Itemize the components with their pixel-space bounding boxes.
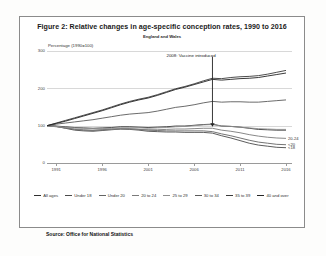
edge-label-20-24: 20-24 xyxy=(288,136,298,141)
legend-swatch-icon xyxy=(132,195,139,196)
legend-label: Under 18 xyxy=(74,193,91,198)
x-tick-label-2016: 2016 xyxy=(275,167,297,172)
legend-label: 30 to 34 xyxy=(204,193,219,198)
x-tick-label-2011: 2011 xyxy=(229,167,251,172)
edge-label-18: <18 xyxy=(288,145,295,150)
figure-border-box: Figure 2: Relative changes in age-specif… xyxy=(19,16,305,228)
x-tick-mark-2016 xyxy=(286,163,287,166)
series-lines xyxy=(47,45,298,185)
y-tick-label-300: 300 xyxy=(28,48,45,53)
legend-item-35-to-39[interactable]: 35 to 39 xyxy=(226,193,250,198)
x-tick-mark-2011 xyxy=(240,163,241,166)
x-tick-mark-1991 xyxy=(56,163,57,166)
legend-item-30-to-34[interactable]: 30 to 34 xyxy=(195,193,219,198)
legend-item-under-20[interactable]: Under 20 xyxy=(99,193,125,198)
figure-subtitle: England and Wales xyxy=(20,34,304,39)
x-tick-label-2001: 2001 xyxy=(137,167,159,172)
x-tick-mark-1996 xyxy=(102,163,103,166)
legend-label: All ages xyxy=(43,193,58,198)
legend-label: 40 and over xyxy=(266,193,288,198)
y-tick-label-200: 200 xyxy=(28,86,45,91)
line-40-and-over xyxy=(47,73,286,126)
legend-row: All agesUnder 18Under 2020 to 2425 to 29… xyxy=(34,193,306,200)
source-note: Source: Office for National Statistics xyxy=(46,231,133,237)
y-tick-label-100: 100 xyxy=(28,123,45,128)
legend-item-under-18[interactable]: Under 18 xyxy=(65,193,91,198)
legend-swatch-icon xyxy=(195,195,202,196)
legend-swatch-icon xyxy=(99,195,106,196)
line-30-to-34 xyxy=(47,100,286,126)
legend-swatch-icon xyxy=(163,195,170,196)
annotation-vaccine-label: 2008: Vaccine introduced xyxy=(166,53,215,58)
legend-label: 35 to 39 xyxy=(235,193,250,198)
line-35-to-39 xyxy=(47,70,286,125)
legend-item-20-to-24[interactable]: 20 to 24 xyxy=(132,193,156,198)
legend-swatch-icon xyxy=(257,195,264,196)
x-tick-label-1996: 1996 xyxy=(91,167,113,172)
legend-item-40-and-over[interactable]: 40 and over xyxy=(257,193,288,198)
x-tick-label-2006: 2006 xyxy=(183,167,205,172)
legend-label: 20 to 24 xyxy=(141,193,156,198)
x-tick-label-1991: 1991 xyxy=(45,167,67,172)
legend-swatch-icon xyxy=(65,195,72,196)
figure-title: Figure 2: Relative changes in age-specif… xyxy=(20,23,304,31)
plot-area: Percentage (1990=100) 0100200300 1991199… xyxy=(28,45,298,185)
y-tick-label-0: 0 xyxy=(28,160,45,165)
legend-swatch-icon xyxy=(226,195,233,196)
chart-legend: All agesUnder 18Under 2020 to 2425 to 29… xyxy=(34,193,306,200)
x-tick-mark-2006 xyxy=(194,163,195,166)
legend-swatch-icon xyxy=(34,195,41,196)
legend-label: 25 to 29 xyxy=(172,193,187,198)
x-tick-mark-2001 xyxy=(148,163,149,166)
figure-page: Figure 2: Relative changes in age-specif… xyxy=(0,0,326,256)
legend-label: Under 20 xyxy=(108,193,125,198)
legend-item-25-to-29[interactable]: 25 to 29 xyxy=(163,193,187,198)
legend-item-all-ages[interactable]: All ages xyxy=(34,193,58,198)
